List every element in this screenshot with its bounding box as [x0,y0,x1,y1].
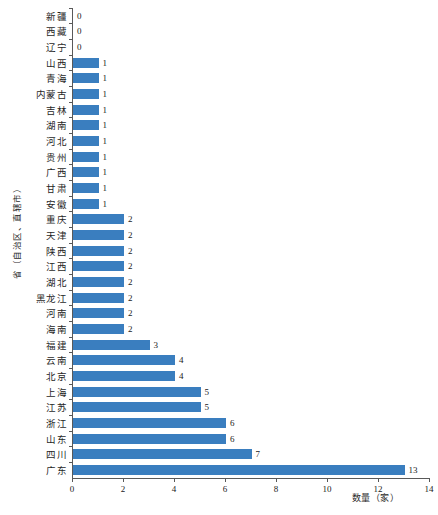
bar-row: 江苏5 [72,400,429,415]
bar-row: 浙江6 [72,415,429,430]
bar [73,261,124,271]
bar-row: 江西2 [72,259,429,274]
y-axis-tick [69,305,72,306]
category-label: 北京 [46,369,67,383]
y-axis-tick [69,462,72,463]
bar-value-label: 2 [128,308,133,318]
bar-value-label: 0 [77,11,82,21]
bar-row: 海南2 [72,321,429,336]
x-axis-line [72,478,429,479]
bar-value-label: 1 [103,199,108,209]
bar-value-label: 0 [77,26,82,36]
y-axis-tick [69,227,72,228]
bar-value-label: 2 [128,324,133,334]
y-axis-tick [69,368,72,369]
bar [73,371,175,381]
y-axis-tick [69,117,72,118]
bar-row: 福建3 [72,337,429,352]
y-axis-tick [69,352,72,353]
bar [73,449,252,459]
x-axis-tick [123,478,124,482]
y-axis-tick [69,337,72,338]
y-axis-tick [69,384,72,385]
y-axis-tick [69,39,72,40]
y-axis-tick [69,102,72,103]
bar-row: 吉林1 [72,102,429,117]
y-axis-tick [69,274,72,275]
bar [73,387,201,397]
y-axis-tick [69,149,72,150]
category-label: 青海 [46,71,67,85]
x-axis-tick [327,478,328,482]
y-axis-tick [69,8,72,9]
bar-row: 重庆2 [72,212,429,227]
bar-chart: 省（自治区、直辖市） 新疆0西藏0辽宁0山西1青海1内蒙古1吉林1湖南1河北1贵… [0,0,438,515]
bar-value-label: 5 [205,402,210,412]
bar-row: 河北1 [72,133,429,148]
y-axis-tick [69,290,72,291]
y-axis-tick [69,431,72,432]
bar-row: 青海1 [72,71,429,86]
bar-row: 安徽1 [72,196,429,211]
bar [73,183,99,193]
y-axis-tick [69,321,72,322]
category-label: 天津 [46,228,67,242]
category-label: 福建 [46,338,67,352]
category-label: 重庆 [46,212,67,226]
x-axis-tick [429,478,430,482]
category-label: 四川 [46,447,67,461]
x-axis-tick-label: 0 [70,484,75,494]
y-axis-tick [69,399,72,400]
bar [73,89,99,99]
category-label: 广东 [46,463,67,477]
bar-value-label: 2 [128,230,133,240]
bar-row: 黑龙江2 [72,290,429,305]
bar [73,402,201,412]
bar-row: 甘肃1 [72,180,429,195]
x-axis-tick [276,478,277,482]
y-axis-tick [69,258,72,259]
bar [73,340,150,350]
bar [73,308,124,318]
bar-value-label: 4 [179,355,184,365]
category-label: 云南 [46,353,67,367]
plot-area: 新疆0西藏0辽宁0山西1青海1内蒙古1吉林1湖南1河北1贵州1广西1甘肃1安徽1… [72,8,429,478]
bar-value-label: 6 [230,418,235,428]
category-label: 山东 [46,432,67,446]
category-label: 黑龙江 [36,291,67,305]
bar-row: 陕西2 [72,243,429,258]
category-label: 湖北 [46,275,67,289]
y-axis-tick [69,415,72,416]
bar-value-label: 2 [128,261,133,271]
category-label: 海南 [46,322,67,336]
category-label: 河北 [46,134,67,148]
category-label: 山西 [46,56,67,70]
category-label: 西藏 [46,24,67,38]
y-axis-tick [69,211,72,212]
bar-value-label: 3 [154,340,159,350]
bar-value-label: 2 [128,214,133,224]
bar-row: 辽宁0 [72,39,429,54]
y-axis-tick [69,55,72,56]
y-axis-tick [69,23,72,24]
y-axis-tick [69,180,72,181]
bar-value-label: 1 [103,73,108,83]
bar-value-label: 0 [77,42,82,52]
category-label: 内蒙古 [36,87,67,101]
bar [73,199,99,209]
bar-value-label: 2 [128,277,133,287]
bar-row: 广东13 [72,462,429,477]
bar-value-label: 6 [230,434,235,444]
bar [73,434,226,444]
bar-row: 四川7 [72,447,429,462]
category-label: 贵州 [46,150,67,164]
bar-value-label: 1 [103,58,108,68]
category-label: 吉林 [46,103,67,117]
bar-value-label: 13 [409,465,418,475]
y-axis-tick [69,164,72,165]
category-label: 新疆 [46,9,67,23]
category-label: 江西 [46,259,67,273]
x-axis-tick [174,478,175,482]
bar-value-label: 1 [103,183,108,193]
bar [73,58,99,68]
